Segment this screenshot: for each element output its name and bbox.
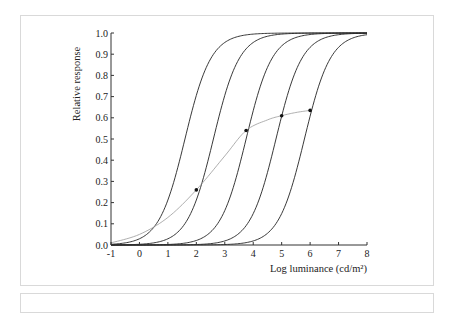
data-point-marker — [280, 114, 284, 118]
x-tick-label: 6 — [308, 248, 313, 259]
y-axis-title: Relative response — [71, 46, 82, 121]
x-tick-label: -1 — [107, 248, 115, 259]
y-tick-label: 0.8 — [96, 70, 109, 81]
x-tick-label: 2 — [194, 248, 199, 259]
y-tick-label: 0.4 — [96, 155, 109, 166]
series-line-1 — [111, 33, 367, 244]
series-line-6 — [111, 110, 310, 243]
x-tick-label: 0 — [137, 248, 142, 259]
y-tick-label: 0.7 — [96, 91, 109, 102]
data-point-marker — [308, 109, 312, 113]
y-tick-label: 0.6 — [96, 112, 109, 123]
y-tick-label: 0.5 — [96, 134, 109, 145]
data-point-marker — [195, 188, 199, 192]
series-line-3 — [111, 33, 367, 245]
data-point-marker — [244, 129, 248, 133]
x-tick-label: 5 — [279, 248, 284, 259]
plot-curves — [111, 33, 367, 245]
y-tick-label: 0.3 — [96, 176, 109, 187]
x-tick-label: 1 — [165, 248, 170, 259]
axes — [111, 33, 367, 245]
x-tick-label: 8 — [365, 248, 370, 259]
y-tick-label: 1.0 — [96, 28, 109, 39]
x-tick-label: 7 — [336, 248, 341, 259]
x-tick-label: 4 — [251, 248, 256, 259]
y-tick-label: 0.2 — [96, 197, 109, 208]
y-tick-label: 0.9 — [96, 49, 109, 60]
series-line-4 — [111, 33, 367, 245]
x-tick-label: 3 — [222, 248, 227, 259]
x-axis-title: Log luminance (cd/m²) — [270, 263, 368, 275]
y-tick-label: 0.1 — [96, 218, 109, 229]
series-line-2 — [111, 33, 367, 245]
series-line-5 — [111, 35, 367, 245]
